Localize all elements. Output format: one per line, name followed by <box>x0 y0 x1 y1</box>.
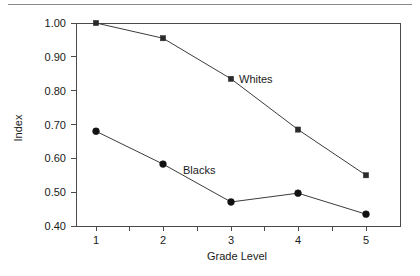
data-point-whites-5 <box>363 173 368 178</box>
data-point-blacks-1 <box>93 128 100 135</box>
y-axis-title: Index <box>12 114 24 141</box>
series-whites-line <box>96 23 366 175</box>
y-tick-label: 0.70 <box>45 119 66 131</box>
data-point-whites-2 <box>160 36 165 41</box>
x-tick-label: 4 <box>295 234 301 246</box>
y-tick-label: 0.50 <box>45 186 66 198</box>
y-axis-tick-labels: 1.00 0.90 0.80 0.70 0.60 0.50 0.40 <box>45 17 66 232</box>
series-blacks <box>93 128 370 218</box>
x-tick-label: 5 <box>363 234 369 246</box>
data-point-blacks-4 <box>295 190 302 197</box>
data-point-blacks-2 <box>160 161 167 168</box>
y-tick-label: 0.90 <box>45 51 66 63</box>
header-divider <box>8 4 412 5</box>
series-whites <box>93 20 368 177</box>
x-tick-label: 1 <box>93 234 99 246</box>
x-axis-tick-labels: 1 2 3 4 5 <box>93 234 369 246</box>
chart-figure: 1.00 0.90 0.80 0.70 0.60 0.50 0.40 1 2 <box>0 0 420 276</box>
plot-frame <box>76 23 400 226</box>
series-whites-markers <box>93 20 368 177</box>
y-tick-label: 0.40 <box>45 220 66 232</box>
data-point-blacks-3 <box>228 199 235 206</box>
series-blacks-markers <box>93 128 370 218</box>
line-chart-canvas: 1.00 0.90 0.80 0.70 0.60 0.50 0.40 1 2 <box>0 0 420 276</box>
y-tick-label: 0.80 <box>45 85 66 97</box>
data-point-blacks-5 <box>363 211 370 218</box>
x-tick-label: 2 <box>160 234 166 246</box>
series-label-blacks: Blacks <box>183 164 216 176</box>
x-axis-ticks <box>96 226 366 231</box>
data-point-whites-4 <box>295 127 300 132</box>
data-point-whites-3 <box>228 76 233 81</box>
x-axis-title: Grade Level <box>207 250 267 262</box>
y-axis-ticks <box>71 23 76 226</box>
y-tick-label: 0.60 <box>45 152 66 164</box>
data-point-whites-1 <box>93 20 98 25</box>
y-tick-label: 1.00 <box>45 17 66 29</box>
x-tick-label: 3 <box>228 234 234 246</box>
series-label-whites: Whites <box>239 73 273 85</box>
